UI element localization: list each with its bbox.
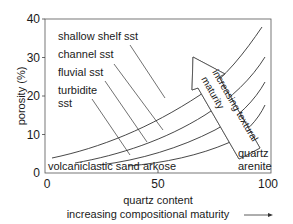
- y-tick-30: 30: [27, 51, 41, 65]
- label-arenite: arenite: [238, 160, 272, 172]
- y-tick-20: 20: [27, 89, 41, 103]
- label-channel: channel sst: [58, 48, 114, 60]
- y-tick-10: 10: [27, 128, 41, 142]
- leader-lines: [92, 45, 165, 155]
- label-arkose: arkose: [143, 160, 176, 172]
- label-turbidite-line2: sst: [58, 97, 72, 109]
- label-volcaniclastic-sand: volcaniclastic sand: [48, 160, 140, 172]
- porosity-chart: 40 30 20 10 0 0 50 100 porosity (%) quar…: [0, 0, 293, 224]
- y-axis-label: porosity (%): [15, 67, 27, 126]
- label-quartz: quartz: [238, 147, 269, 159]
- x-tick-0: 0: [44, 177, 51, 191]
- label-turbidite-line1: turbidite: [58, 84, 97, 96]
- label-fluvial: fluvial sst: [58, 66, 103, 78]
- x-tick-100: 100: [258, 177, 278, 191]
- y-tick-0: 0: [33, 166, 40, 180]
- right-arrow-icon: [244, 213, 273, 217]
- label-shallow-shelf: shallow shelf sst: [58, 30, 138, 42]
- y-tick-40: 40: [27, 12, 41, 26]
- x-axis-label: quartz content: [123, 194, 193, 206]
- y-axis-ticks: 40 30 20 10 0: [27, 12, 45, 180]
- x-tick-50: 50: [151, 177, 165, 191]
- x-axis-secondary-label: increasing compositional maturity: [67, 208, 230, 220]
